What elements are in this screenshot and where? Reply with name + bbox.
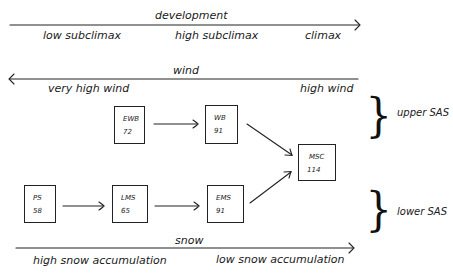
wind-label-very-high: very high wind — [48, 83, 129, 94]
development-label-high-subclimax: high subclimax — [175, 30, 258, 41]
node-ps-name: PS — [33, 195, 42, 202]
wind-title: wind — [173, 65, 199, 76]
development-label-climax: climax — [305, 30, 341, 41]
wind-label-high: high wind — [300, 83, 354, 94]
edge-wb-msc — [247, 124, 292, 155]
snow-label-high-accumulation: high snow accumulation — [33, 255, 167, 266]
lower-sas-brace-icon: } — [365, 186, 391, 232]
node-msc-value: 114 — [307, 167, 320, 174]
node-ewb: EWB 72 — [114, 106, 145, 144]
node-wb-name: WB — [214, 115, 226, 122]
node-ewb-value: 72 — [123, 129, 132, 136]
upper-sas-brace-icon: } — [365, 92, 391, 138]
lower-sas-label: lower SAS — [397, 207, 447, 217]
edge-ems-msc — [250, 172, 291, 203]
node-wb: WB 91 — [205, 105, 238, 144]
snow-title: snow — [175, 235, 203, 246]
node-ewb-name: EWB — [123, 116, 139, 123]
development-label-low-subclimax: low subclimax — [43, 30, 121, 41]
node-lms: LMS 65 — [112, 185, 148, 223]
snow-label-low-accumulation: low snow accumulation — [216, 254, 345, 265]
node-ems-value: 91 — [216, 208, 225, 215]
upper-sas-label: upper SAS — [397, 108, 449, 118]
node-ems-name: EMS — [216, 195, 231, 202]
node-msc: MSC 114 — [298, 144, 336, 181]
succession-diagram: development low subclimax high subclimax… — [0, 0, 453, 273]
development-title: development — [155, 10, 228, 21]
node-ems: EMS 91 — [207, 185, 244, 223]
node-wb-value: 91 — [214, 128, 223, 135]
node-ps: PS 58 — [24, 185, 56, 223]
node-lms-value: 65 — [121, 208, 130, 215]
node-ps-value: 58 — [33, 208, 42, 215]
node-lms-name: LMS — [121, 195, 135, 202]
node-msc-name: MSC — [309, 154, 324, 161]
